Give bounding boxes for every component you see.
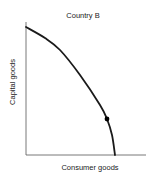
ppf-curve: [26, 27, 115, 155]
ppf-chart: Country B Capital goods Consumer goods: [0, 0, 152, 182]
chart-plot-area: [0, 0, 152, 182]
ppf-point-marker: [105, 117, 110, 122]
